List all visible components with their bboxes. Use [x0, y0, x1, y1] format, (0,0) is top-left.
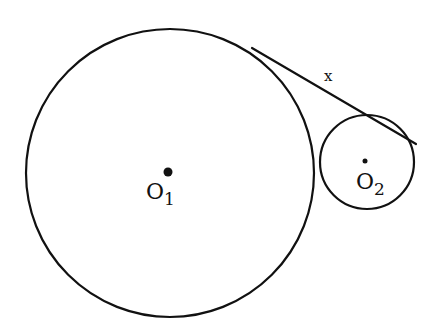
tangent-circles-diagram: O1 O2 x [0, 0, 434, 332]
center-point-o2 [363, 159, 368, 164]
label-o2: O2 [356, 169, 385, 199]
label-x: x [324, 67, 333, 85]
label-o1: O1 [146, 179, 175, 209]
center-point-o1 [164, 168, 173, 177]
